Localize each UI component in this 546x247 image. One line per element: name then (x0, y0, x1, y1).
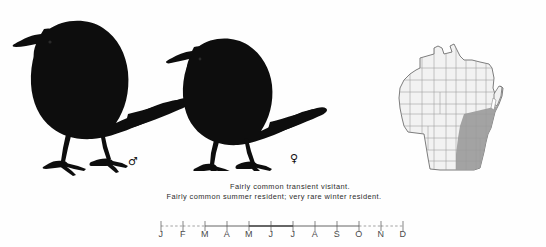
month-label-sep: S (330, 229, 344, 239)
month-label-may: M (242, 229, 256, 239)
month-label-jul: J (286, 229, 300, 239)
bird-silhouette-plate: ♂ (0, 0, 370, 180)
status-line-resident: Fairly common summer resident; very rare… (0, 192, 546, 202)
month-label-oct: O (352, 229, 366, 239)
status-line-transient: Fairly common transient visitant. (0, 182, 546, 192)
month-label-mar: M (198, 229, 212, 239)
bird-eye (199, 58, 202, 61)
wisconsin-range-map (394, 34, 518, 182)
status-caption: Fairly common transient visitant. Fairly… (0, 182, 546, 202)
bird-female-silhouette (162, 26, 327, 175)
month-label-jan: J (154, 229, 168, 239)
month-label-feb: F (176, 229, 190, 239)
state-outline (399, 44, 503, 170)
month-label-jun: J (264, 229, 278, 239)
month-label-dec: D (396, 229, 410, 239)
month-label-nov: N (374, 229, 388, 239)
male-sex-symbol: ♂ (128, 156, 138, 167)
month-label-aug: A (308, 229, 322, 239)
month-label-row: J F M A M J J A S O N D (150, 229, 412, 243)
bird-eye (48, 40, 51, 43)
field-guide-page: ♂ (0, 0, 546, 247)
female-sex-symbol: ♀ (290, 153, 298, 164)
month-label-apr: A (220, 229, 234, 239)
